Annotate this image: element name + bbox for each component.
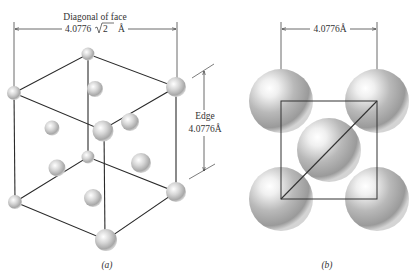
diagonal-unit: Å — [118, 23, 125, 34]
edge-title: Edge — [195, 111, 215, 121]
atom-corner — [7, 86, 21, 100]
atom-face-center — [87, 81, 103, 97]
atoms — [7, 48, 186, 252]
atom-face-center — [131, 153, 151, 173]
atom-face-center — [45, 121, 60, 136]
atom-face-center — [121, 113, 139, 131]
atom-corner — [8, 195, 22, 209]
atom-corner — [95, 229, 117, 251]
atom-corner — [82, 48, 95, 61]
atom-face-center — [84, 189, 102, 207]
edge-dimension-b: 4.0776Å — [281, 22, 377, 70]
atom-corner — [82, 151, 95, 164]
edge-value-b: 4.0776Å — [314, 23, 347, 34]
atom-corner — [93, 121, 114, 142]
caption-a: (a) — [101, 260, 112, 271]
atom-corner — [166, 182, 186, 202]
edge-value: 4.0776Å — [189, 123, 222, 134]
panel-a: Diagonal of face 4.0776 2 Å Edge 4.0776Å — [7, 12, 222, 271]
panel-b: 4.0776Å (b) — [249, 22, 409, 271]
atom-corner — [166, 77, 186, 97]
edge-dimension: Edge 4.0776Å — [189, 64, 222, 179]
fcc-unit-cell-figure: Diagonal of face 4.0776 2 Å Edge 4.0776Å — [0, 0, 414, 276]
atom-face-center — [49, 160, 66, 177]
diagonal-sqrt: 2 — [103, 24, 108, 34]
caption-b: (b) — [321, 260, 332, 271]
diagonal-title: Diagonal of face — [63, 12, 126, 22]
diagonal-value: 4.0776 — [65, 24, 91, 34]
